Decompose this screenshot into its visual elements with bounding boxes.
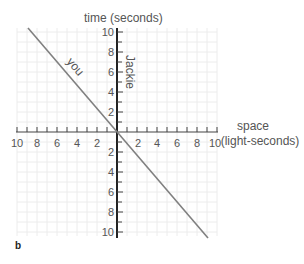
x-tick-label: 8 bbox=[34, 137, 40, 149]
y-tick-label: 2 bbox=[108, 146, 114, 158]
panel-label: b bbox=[15, 240, 21, 251]
x-tick-label: 2 bbox=[135, 137, 141, 149]
x-tick-label: 10 bbox=[209, 137, 221, 149]
spacetime-diagram: 10 8 6 4 2 2 4 6 8 10 10 8 6 4 2 2 4 6 8… bbox=[0, 0, 304, 264]
y-tick-label: 8 bbox=[108, 46, 114, 58]
y-tick-label: 2 bbox=[108, 106, 114, 118]
x-tick-label: 4 bbox=[154, 137, 160, 149]
x-tick-label: 2 bbox=[94, 137, 100, 149]
y-tick-label: 6 bbox=[108, 66, 114, 78]
x-tick-label: 10 bbox=[11, 137, 23, 149]
y-axis-title: time (seconds) bbox=[84, 11, 163, 25]
y-tick-label: 6 bbox=[108, 186, 114, 198]
x-tick-label: 4 bbox=[74, 137, 80, 149]
x-tick-label: 8 bbox=[194, 137, 200, 149]
y-tick-label: 4 bbox=[108, 86, 114, 98]
y-tick-label: 10 bbox=[102, 26, 114, 38]
y-tick-label: 4 bbox=[108, 166, 114, 178]
y-tick-label: 8 bbox=[108, 206, 114, 218]
jackie-label: Jackie bbox=[123, 55, 137, 89]
y-tick-label: 10 bbox=[102, 226, 114, 238]
x-axis-title-line1: space bbox=[237, 119, 269, 133]
x-tick-label: 6 bbox=[174, 137, 180, 149]
x-tick-label: 6 bbox=[54, 137, 60, 149]
x-axis-title-line2: (light-seconds) bbox=[221, 134, 300, 148]
